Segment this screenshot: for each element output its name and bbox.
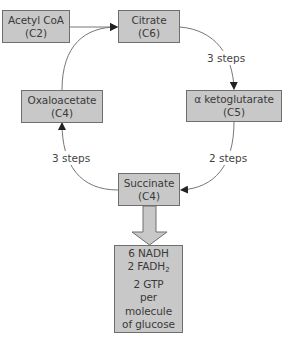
node-citrate-name: Citrate xyxy=(132,14,167,27)
node-acetyl-coa-name: Acetyl CoA xyxy=(8,14,64,27)
output-block-arrow xyxy=(132,206,167,245)
node-acetyl-coa: Acetyl CoA (C2) xyxy=(2,10,70,43)
output-per: per xyxy=(140,291,157,305)
output-of-glucose: of glucose xyxy=(122,318,175,332)
node-succinate: Succinate (C4) xyxy=(118,173,180,206)
node-alpha-ketoglutarate-carbons: (C5) xyxy=(223,106,245,119)
node-alpha-ketoglutarate: α ketoglutarate (C5) xyxy=(186,90,282,122)
node-alpha-ketoglutarate-name: α ketoglutarate xyxy=(194,93,274,106)
output-molecule: molecule xyxy=(125,305,172,319)
output-nadh: 6 NADH xyxy=(128,247,168,261)
node-succinate-name: Succinate xyxy=(124,177,175,190)
edge-label-ketoglutarate-succinate: 2 steps xyxy=(209,151,247,165)
output-fadh2-subscript: 2 xyxy=(165,266,169,274)
output-yield-box: 6 NADH 2 FADH2 2 GTP per molecule of glu… xyxy=(114,245,183,333)
output-fadh2: 2 FADH2 xyxy=(127,260,169,278)
node-succinate-carbons: (C4) xyxy=(138,190,160,203)
output-gtp: 2 GTP xyxy=(133,278,163,292)
node-oxaloacetate-name: Oxaloacetate xyxy=(28,94,97,107)
output-fadh2-text: 2 FADH xyxy=(127,260,165,272)
edge-label-succinate-oxaloacetate: 3 steps xyxy=(52,151,90,165)
node-citrate-carbons: (C6) xyxy=(138,27,160,40)
node-oxaloacetate-carbons: (C4) xyxy=(51,107,73,120)
node-oxaloacetate: Oxaloacetate (C4) xyxy=(21,90,103,123)
node-acetyl-coa-carbons: (C2) xyxy=(25,27,47,40)
node-citrate: Citrate (C6) xyxy=(118,10,180,43)
edge-label-citrate-ketoglutarate: 3 steps xyxy=(207,51,245,65)
arrow-oxaloacetate-to-citrate xyxy=(62,27,117,90)
